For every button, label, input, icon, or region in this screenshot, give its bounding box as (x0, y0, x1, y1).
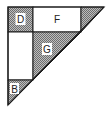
label-d: D (17, 14, 24, 25)
label-f: F (54, 14, 60, 25)
region-left-rectangle (8, 32, 33, 80)
label-b: B (11, 84, 18, 95)
label-g: G (43, 44, 51, 55)
triangle-dissection-diagram: D F G B (0, 0, 107, 115)
